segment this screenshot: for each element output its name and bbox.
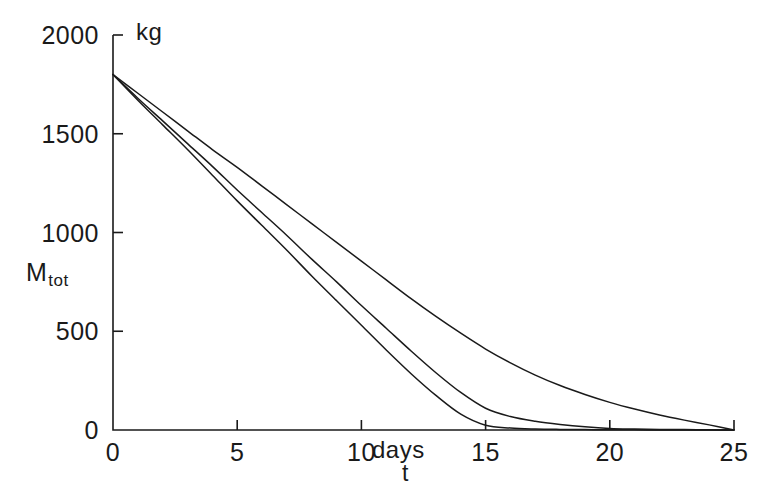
chart-series-lines [113, 75, 734, 431]
y-axis-unit-label: kg [136, 18, 162, 46]
y-axis-tick-label: 1000 [0, 218, 99, 247]
x-axis-title: t [402, 460, 409, 487]
x-axis-tick-label: 5 [230, 438, 244, 467]
chart-tick-marks [113, 35, 734, 430]
chart-figure: 0500100015002000 0510152025 kg days Mtot… [0, 0, 773, 498]
chart-line-curve-3-fastest [113, 75, 734, 431]
x-axis-tick-label: 25 [720, 438, 749, 467]
y-axis-tick-label: 2000 [0, 21, 99, 50]
x-axis-tick-label: 15 [471, 438, 500, 467]
y-axis-title: Mtot [26, 258, 68, 287]
x-axis-tick-label: 0 [106, 438, 120, 467]
y-axis-tick-label: 1500 [0, 119, 99, 148]
chart-axes [113, 35, 734, 430]
y-axis-title-base: M [26, 258, 47, 286]
y-axis-tick-label: 500 [0, 317, 99, 346]
x-axis-tick-label: 20 [595, 438, 624, 467]
chart-line-curve-2-middle [113, 75, 734, 431]
y-axis-tick-label: 0 [0, 416, 99, 445]
y-axis-title-subscript: tot [48, 271, 68, 290]
chart-plot-area [0, 0, 773, 498]
x-axis-unit-label: days [372, 436, 425, 464]
axis-spine [113, 35, 734, 430]
chart-line-curve-1-slowest [113, 75, 734, 431]
